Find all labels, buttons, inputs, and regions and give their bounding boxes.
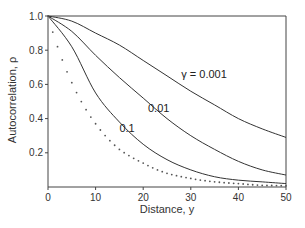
y-tick-label: 0.2 bbox=[29, 147, 43, 158]
series-dotted-point bbox=[266, 185, 268, 187]
series-dotted-point bbox=[247, 184, 249, 186]
series-dotted-point bbox=[261, 184, 263, 186]
series-dotted-point bbox=[104, 135, 106, 137]
series-dotted-point bbox=[280, 185, 282, 187]
autocorrelation-chart: 01020304050 0.20.40.60.81.0 γ = 0.0010.0… bbox=[0, 0, 305, 228]
series-dotted-point bbox=[123, 152, 125, 154]
curve-label: γ = 0.001 bbox=[181, 68, 227, 80]
series-dotted-point bbox=[147, 165, 149, 167]
y-tick-label: 0.6 bbox=[29, 79, 43, 90]
series-dotted-point bbox=[166, 172, 168, 174]
series-dotted-point bbox=[95, 123, 97, 125]
series-dotted-point bbox=[85, 109, 87, 111]
y-tick-label: 0.8 bbox=[29, 45, 43, 56]
x-tick-label: 30 bbox=[185, 192, 197, 203]
series-line-1 bbox=[48, 16, 286, 175]
x-tick-label: 50 bbox=[280, 192, 292, 203]
series-dotted-point bbox=[61, 59, 63, 61]
series-dotted-point bbox=[90, 116, 92, 118]
series-dotted-point bbox=[57, 46, 59, 48]
y-tick-label: 1.0 bbox=[29, 11, 43, 22]
series-dotted-point bbox=[114, 144, 116, 146]
series-dotted-point bbox=[218, 181, 220, 183]
series-dotted-point bbox=[47, 15, 49, 17]
series-dotted-point bbox=[138, 160, 140, 162]
series-dotted-point bbox=[52, 31, 54, 33]
x-tick-label: 20 bbox=[138, 192, 150, 203]
series-dotted-point bbox=[285, 185, 287, 187]
y-axis: 0.20.40.60.81.0 bbox=[29, 11, 48, 159]
series-dotted-point bbox=[233, 182, 235, 184]
series-dotted-point bbox=[80, 101, 82, 103]
series-dotted-point bbox=[257, 184, 259, 186]
series-dotted-point bbox=[276, 185, 278, 187]
series-dotted-point bbox=[190, 178, 192, 180]
series-dotted-point bbox=[238, 183, 240, 185]
series-dotted-point bbox=[76, 92, 78, 94]
annotation-layer: γ = 0.0010.010.1 bbox=[119, 68, 226, 135]
y-axis-label: Autocorrelation, ρ bbox=[6, 57, 18, 143]
series-dotted-point bbox=[157, 169, 159, 171]
series-dotted-point bbox=[142, 162, 144, 164]
series-dotted-point bbox=[152, 167, 154, 169]
x-tick-label: 0 bbox=[45, 192, 51, 203]
x-axis-label: Distance, y bbox=[140, 203, 195, 215]
series-dotted-point bbox=[228, 182, 230, 184]
series-dotted-point bbox=[99, 129, 101, 131]
x-tick-label: 40 bbox=[233, 192, 245, 203]
curve-label: 0.1 bbox=[119, 122, 134, 134]
series-dotted-point bbox=[176, 175, 178, 177]
series-dotted-point bbox=[204, 180, 206, 182]
series-line-2 bbox=[48, 16, 286, 184]
series-dotted-point bbox=[195, 178, 197, 180]
series-dotted-point bbox=[271, 185, 273, 187]
x-axis: 01020304050 bbox=[45, 187, 292, 203]
series-dotted-point bbox=[180, 176, 182, 178]
series-dotted-point bbox=[128, 155, 130, 157]
series-dotted-point bbox=[66, 71, 68, 73]
series-dotted-point bbox=[109, 140, 111, 142]
y-tick-label: 0.4 bbox=[29, 113, 43, 124]
x-tick-label: 10 bbox=[90, 192, 102, 203]
curve-label: 0.01 bbox=[148, 102, 169, 114]
series-dotted-point bbox=[185, 177, 187, 179]
series-dotted-point bbox=[161, 171, 163, 173]
series-dotted-point bbox=[119, 148, 121, 150]
series-dotted-point bbox=[71, 82, 73, 84]
series-dotted-point bbox=[223, 182, 225, 184]
series-dotted-point bbox=[252, 184, 254, 186]
series-dotted-point bbox=[133, 157, 135, 159]
series-dotted-point bbox=[171, 174, 173, 176]
series-dotted-point bbox=[242, 183, 244, 185]
series-dotted-point bbox=[209, 180, 211, 182]
series-dotted-point bbox=[214, 181, 216, 183]
series-dotted-point bbox=[199, 179, 201, 181]
